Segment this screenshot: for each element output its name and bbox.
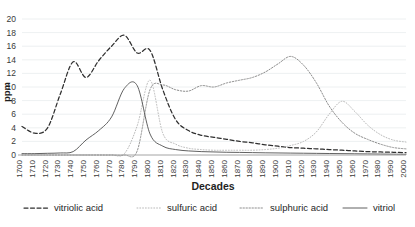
y-tick-label: 6	[11, 109, 16, 119]
x-tick-label: 1700	[15, 159, 24, 177]
x-tick-label: 1830	[181, 159, 190, 177]
x-tick-label: 1780	[117, 159, 126, 177]
x-tick-label: 1910	[284, 159, 293, 177]
x-tick-label: 1740	[66, 159, 75, 177]
x-tick-label: 1800	[143, 159, 152, 177]
x-axis-tick-labels: 1700171017201730174017501760177017801790…	[15, 159, 408, 177]
x-tick-label: 1770	[105, 159, 114, 177]
x-tick-label: 1900	[271, 159, 280, 177]
x-tick-label: 1840	[194, 159, 203, 177]
y-tick-label: 18	[7, 28, 17, 38]
x-tick-label: 1860	[220, 159, 229, 177]
data-series-group	[22, 35, 406, 157]
y-tick-label: 2	[11, 136, 16, 146]
gridlines-group	[22, 19, 406, 141]
x-tick-label: 1930	[309, 159, 318, 177]
x-tick-label: 1760	[92, 159, 101, 177]
y-tick-label: 8	[11, 96, 16, 106]
x-tick-label: 1850	[207, 159, 216, 177]
legend-label: sulfuric acid	[167, 202, 217, 213]
x-tick-label: 1980	[373, 159, 382, 177]
x-tick-label: 1810	[156, 159, 165, 177]
x-tick-label: 1960	[348, 159, 357, 177]
x-tick-label: 1730	[53, 159, 62, 177]
ngram-frequency-chart: 02468101214161820 1700171017201730174017…	[0, 0, 415, 227]
chart-canvas: 02468101214161820 1700171017201730174017…	[0, 0, 415, 227]
y-axis-title: ppm	[1, 82, 12, 102]
y-tick-label: 20	[7, 14, 17, 24]
x-tick-label: 1970	[361, 159, 370, 177]
y-tick-label: 0	[11, 150, 16, 160]
x-tick-label: 1950	[335, 159, 344, 177]
x-tick-label: 1880	[245, 159, 254, 177]
chart-legend: vitriolic acidsulfuric acidsulphuric aci…	[24, 202, 395, 213]
x-tick-label: 1720	[41, 159, 50, 177]
y-tick-label: 14	[7, 55, 17, 65]
x-tick-label: 1750	[79, 159, 88, 177]
series-line-sulphuric-acid	[22, 56, 406, 156]
legend-label: sulphuric acid	[270, 202, 328, 213]
x-tick-label: 1940	[322, 159, 331, 177]
y-tick-label: 16	[7, 41, 17, 51]
series-line-vitriolic-acid	[22, 35, 406, 152]
x-tick-label: 1790	[130, 159, 139, 177]
x-tick-label: 1920	[297, 159, 306, 177]
x-tick-label: 1990	[386, 159, 395, 177]
x-tick-label: 1890	[258, 159, 267, 177]
legend-label: vitriol	[373, 202, 395, 213]
x-tick-label: 1870	[233, 159, 242, 177]
y-tick-label: 12	[7, 68, 17, 78]
x-axis-title: Decades	[191, 180, 234, 192]
legend-label: vitriolic acid	[54, 202, 103, 213]
series-line-sulfuric-acid	[22, 80, 406, 156]
x-tick-label: 1820	[169, 159, 178, 177]
x-tick-label: 1710	[28, 159, 37, 177]
series-line-vitriol	[22, 82, 406, 155]
y-tick-label: 4	[11, 123, 16, 133]
x-tick-label: 2000	[399, 159, 408, 177]
